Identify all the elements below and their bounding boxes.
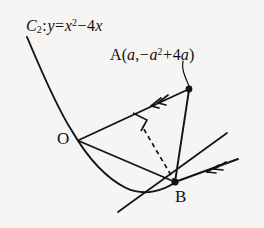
point-a-name: A (110, 46, 122, 63)
curve-name: C (26, 17, 37, 34)
curve-coefficient: 4 (87, 17, 95, 34)
point-a-close-paren: ) (189, 46, 194, 63)
point-a-coordinates-label: A(a,−a2+4a) (110, 47, 194, 63)
tick-marks-oa (151, 95, 168, 108)
point-b-marker (171, 178, 178, 185)
segment-oa (79, 89, 189, 140)
point-a-y-variable-2: a (181, 46, 189, 63)
curve-minus-sign: − (77, 17, 87, 34)
point-a-y-variable: a (149, 46, 157, 63)
right-angle-mark (133, 113, 147, 131)
dashed-perpendicular-from-b (142, 126, 175, 182)
point-a-x-value: a (127, 46, 135, 63)
curve-equals: = (55, 17, 65, 34)
ray-from-b (175, 159, 238, 182)
point-a-marker (186, 86, 193, 93)
geometry-figure: C2:y=x2−4x A(a,−a2+4a) O B (0, 0, 264, 228)
tick-marks-ray-b (207, 162, 226, 173)
curve-variable: x (65, 17, 72, 34)
point-b-label: B (175, 188, 186, 205)
point-a-plus-sign: + (163, 46, 173, 63)
segment-ab (175, 90, 189, 182)
curve-equation-label: C2:y=x2−4x (26, 18, 102, 35)
point-a-minus-sign: − (139, 46, 149, 63)
leader-line-to-a (183, 61, 189, 86)
point-a-coefficient: 4 (173, 46, 181, 63)
point-a-y-exponent: 2 (158, 46, 163, 57)
point-o-label: O (57, 130, 69, 147)
curve-lhs: y (47, 17, 54, 34)
curve-variable-2: x (95, 17, 102, 34)
